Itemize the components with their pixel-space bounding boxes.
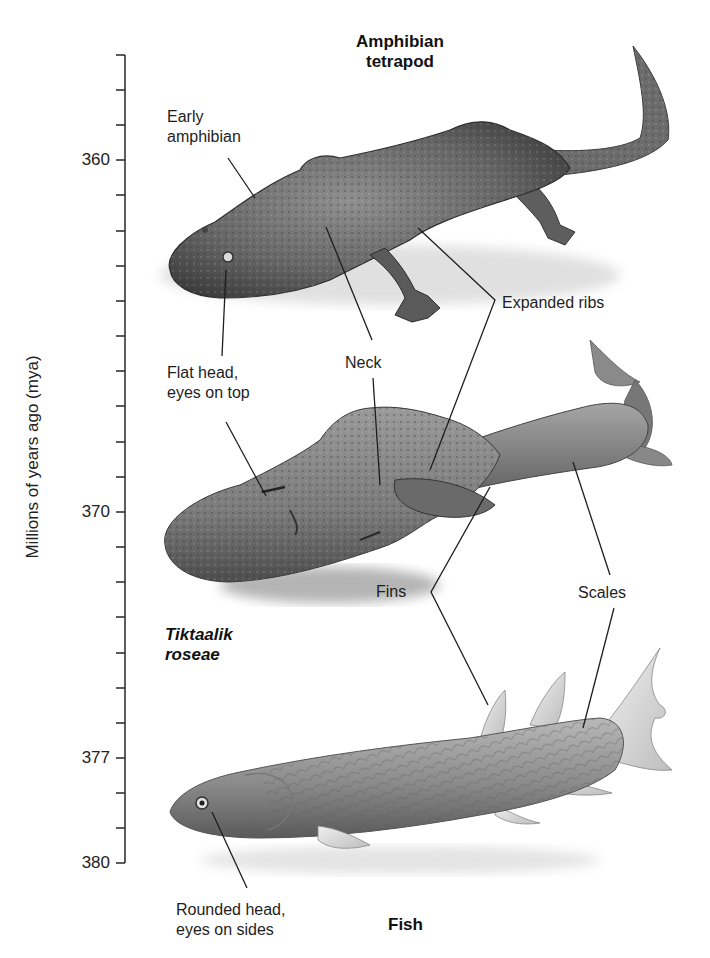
tiktaalik-line-1: Tiktaalik — [165, 625, 233, 645]
y-axis-title: Millions of years ago (mya) — [23, 342, 43, 572]
tick-label-377: 377 — [60, 748, 110, 768]
fish-title: Fish — [388, 915, 423, 935]
scales-label: Scales — [578, 583, 626, 603]
rounded-head-label: Rounded head, eyes on sides — [176, 900, 285, 940]
early-amphibian-line-1: Early — [167, 107, 241, 127]
tiktaalik-roseae-label: Tiktaalik roseae — [165, 625, 233, 665]
fins-label: Fins — [376, 582, 406, 602]
tick-label-370: 370 — [60, 502, 110, 522]
tick-label-380: 380 — [60, 853, 110, 873]
flat-head-line-1: Flat head, — [167, 363, 250, 383]
flat-head-line-2: eyes on top — [167, 383, 250, 403]
tiktaalik-line-2: roseae — [165, 645, 233, 665]
flat-head-label: Flat head, eyes on top — [167, 363, 250, 403]
neck-label: Neck — [345, 353, 381, 373]
fish-illustration — [170, 648, 672, 874]
rounded-head-line-2: eyes on sides — [176, 920, 285, 940]
amphibian-tetrapod-title: Amphibian tetrapod — [340, 32, 460, 72]
expanded-ribs-label: Expanded ribs — [502, 293, 604, 313]
illustration-layer — [0, 0, 710, 958]
tick-label-360: 360 — [60, 150, 110, 170]
amphibian-title-line-1: Amphibian — [340, 32, 460, 52]
rounded-head-line-1: Rounded head, — [176, 900, 285, 920]
time-axis — [116, 55, 125, 863]
early-amphibian-line-2: amphibian — [167, 127, 241, 147]
amphibian-tetrapod-illustration — [160, 46, 669, 322]
early-amphibian-label: Early amphibian — [167, 107, 241, 147]
evolution-timeline-figure: 360 370 377 380 Millions of years ago (m… — [0, 0, 710, 958]
amphibian-title-line-2: tetrapod — [340, 52, 460, 72]
